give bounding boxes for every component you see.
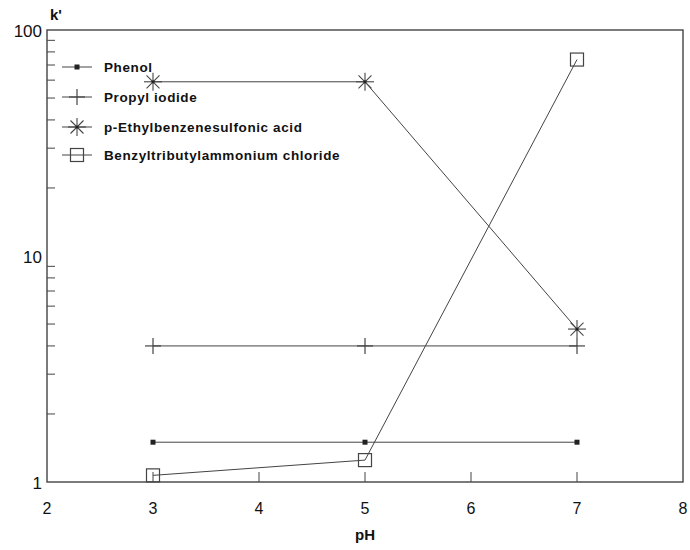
asterisk-marker (68, 118, 86, 136)
legend-label: p-Ethylbenzenesulfonic acid (104, 120, 302, 135)
legend-item: Phenol (62, 60, 153, 75)
series-benzyltributylammonium-chloride (147, 53, 584, 482)
dot-marker (363, 440, 368, 445)
legend: PhenolPropyl iodidep-Ethylbenzenesulfoni… (62, 60, 340, 163)
legend-item: Benzyltributylammonium chloride (62, 148, 340, 163)
series-line (153, 82, 577, 329)
dot-marker (575, 440, 580, 445)
series-phenol (151, 440, 580, 445)
x-tick-label: 5 (361, 500, 370, 517)
x-axis-label: pH (355, 526, 375, 543)
line-chart: 2345678110100 PhenolPropyl iodidep-Ethyl… (0, 0, 690, 550)
legend-label: Phenol (104, 60, 153, 75)
legend-label: Propyl iodide (104, 90, 197, 105)
y-tick-label: 10 (23, 248, 42, 267)
series-p-ethylbenzenesulfonic-acid (144, 73, 586, 338)
x-tick-label: 8 (679, 500, 688, 517)
legend-item: Propyl iodide (62, 89, 197, 105)
y-axis-label: k' (50, 6, 62, 23)
y-tick-label: 1 (33, 474, 42, 493)
dot-marker (75, 65, 80, 70)
asterisk-marker (356, 73, 374, 91)
x-tick-label: 4 (255, 500, 264, 517)
x-tick-label: 3 (149, 500, 158, 517)
series-propyl-iodide (145, 338, 585, 354)
x-tick-label: 2 (43, 500, 52, 517)
legend-item: p-Ethylbenzenesulfonic acid (62, 118, 302, 136)
dot-marker (151, 440, 156, 445)
y-tick-label: 100 (14, 22, 42, 41)
legend-label: Benzyltributylammonium chloride (104, 148, 340, 163)
asterisk-marker (144, 73, 162, 91)
x-tick-label: 7 (573, 500, 582, 517)
asterisk-marker (568, 320, 586, 338)
x-tick-label: 6 (467, 500, 476, 517)
